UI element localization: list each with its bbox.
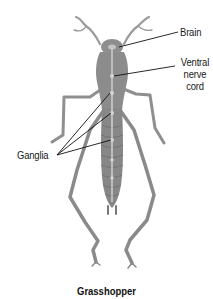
- brain-label: Brain: [180, 26, 201, 38]
- ganglion: [110, 158, 114, 162]
- ventral-nerve-cord-label: Ventral nerve cord: [180, 56, 211, 92]
- ventral-nerve-cord-label-line-3: cord: [180, 80, 211, 92]
- brain-leader-line: [119, 32, 178, 47]
- leg-feet: [92, 262, 136, 268]
- ganglion: [110, 91, 114, 95]
- ganglion: [110, 176, 114, 180]
- ventral-nerve-cord-label-line-2: nerve: [180, 68, 211, 80]
- brain: [108, 45, 116, 50]
- diagram-caption: Grasshopper: [15, 285, 198, 297]
- ganglia-label: Ganglia: [17, 149, 48, 161]
- ganglion: [110, 74, 114, 78]
- ventral-nerve-cord-label-line-1: Ventral: [180, 56, 211, 68]
